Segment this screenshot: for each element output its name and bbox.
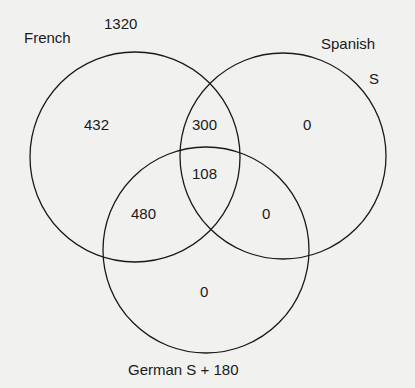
french-label: French: [24, 30, 71, 45]
venn-diagram: [0, 0, 415, 388]
region-french-german: 480: [131, 206, 156, 221]
german-label: German S + 180: [128, 362, 238, 377]
region-spanish-german: 0: [262, 206, 270, 221]
region-french-spanish: 300: [192, 117, 217, 132]
spanish-label: Spanish: [321, 36, 375, 51]
region-german-only: 0: [200, 284, 208, 299]
region-all-three: 108: [192, 166, 217, 181]
spanish-total: S: [369, 71, 379, 86]
french-circle: [30, 52, 240, 262]
region-spanish-only: 0: [303, 117, 311, 132]
region-french-only: 432: [84, 117, 109, 132]
french-total: 1320: [104, 16, 137, 31]
